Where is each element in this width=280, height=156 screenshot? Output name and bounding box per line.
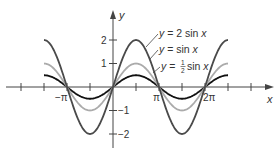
y-axis-label: y xyxy=(118,9,126,21)
tick-label-2pi: 2π xyxy=(203,92,216,103)
y-axis-arrow-icon xyxy=(110,10,116,19)
sine-graph: y x −π π 2π 2 1 −1 −2 y = 2 sin x y = si… xyxy=(0,0,280,156)
tick-label-neg-pi: −π xyxy=(55,92,68,103)
x-axis-arrow-icon xyxy=(265,84,274,90)
svg-text:2: 2 xyxy=(181,67,185,74)
tick-label-ym2: −2 xyxy=(118,129,130,140)
tick-label-pi: π xyxy=(153,92,160,103)
legend-2-sin-x: y = 2 sin x xyxy=(158,27,207,39)
svg-text:1: 1 xyxy=(181,59,185,66)
tick-label-y2: 2 xyxy=(101,35,107,46)
x-axis-label: x xyxy=(266,93,273,105)
x-axis xyxy=(6,83,274,91)
tick-label-y1: 1 xyxy=(101,58,107,69)
leader-line-sin xyxy=(150,50,158,59)
legend-sin-x: y = sin x xyxy=(158,43,199,55)
legend-half-sin-x: y = 1 2 sin x xyxy=(160,59,209,75)
leader-line-2sin xyxy=(146,34,158,47)
svg-text:y =: y = xyxy=(160,60,175,72)
tick-label-ym1: −1 xyxy=(118,105,130,116)
svg-text:sin x: sin x xyxy=(187,60,209,72)
